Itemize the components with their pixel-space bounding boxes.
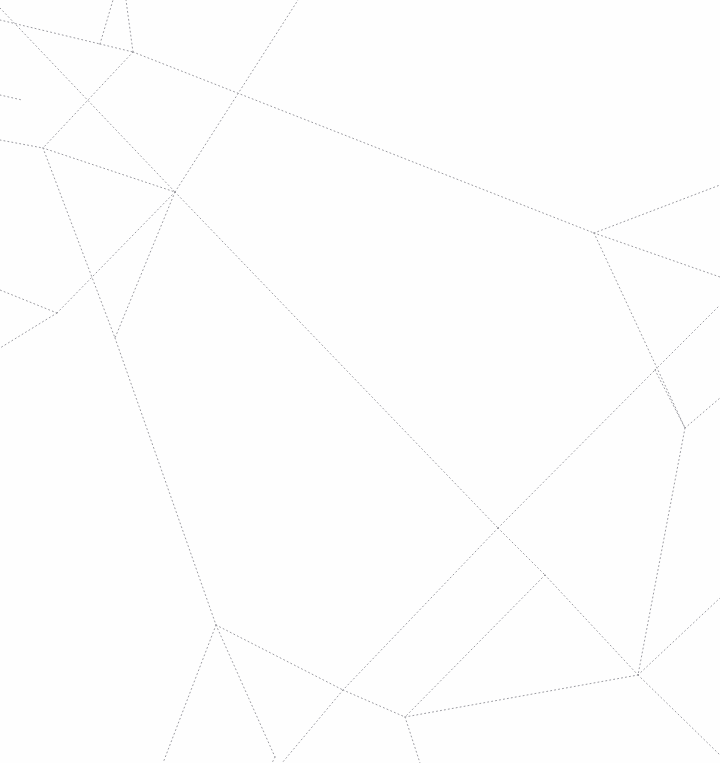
edge-lower-center-a-to-lower-center-b [343,690,405,717]
edge-hub-to-left-mid-b [115,192,175,338]
edge-left-upper-to-left-mid-b [43,148,115,338]
edge-right-upper-to-right-edge-top [594,185,720,233]
edge-left-edge-short-stub [0,95,22,100]
edge-top-left-corner-to-hub [0,8,175,192]
edge-center-cross-a-to-lower-center-a [343,528,498,690]
edge-lower-center-a-to-bottom-edge [282,690,343,763]
edge-bottom-v-to-bottom-edge [272,757,275,763]
edge-right-mid-b-to-right-edge [685,398,720,428]
edge-layer [0,0,720,763]
edge-left-mid-a-to-left-edge-low [0,313,57,348]
edge-upper-left-a-to-top-edge [100,0,113,44]
edge-right-mid-a-to-right-edge [655,305,720,370]
edge-upper-left-b-to-right-upper [133,52,594,233]
edge-right-mid-a-to-right-mid-b [655,370,685,428]
edge-lower-left-to-bottom-v [216,625,275,757]
edge-center-cross-a-to-center-cross-b [498,528,545,575]
edge-upper-left-b-to-top-edge [126,0,133,52]
edge-upper-left-a-to-upper-left-b [100,44,133,52]
edge-center-cross-b-to-lower-right [545,575,638,675]
edge-lower-left-to-bottom-edge-left [163,625,216,763]
edge-right-upper-to-right-mid-b [594,233,685,428]
edge-lower-center-b-to-bottom-edge [405,717,420,763]
edge-hub-to-center-cross-a [175,192,498,528]
edge-hub-to-left-mid-a [57,192,175,313]
edge-right-mid-b-to-lower-right [638,428,685,675]
edge-hub-to-top-edge [175,0,298,192]
line-arrangement-svg [0,0,720,763]
edge-right-upper-to-right-edge-mid [594,233,720,277]
edge-center-cross-a-to-right-mid-a [498,370,655,528]
edge-left-edge-to-upper-left-a [0,20,100,44]
edge-lower-right-to-bottom-edge [638,675,720,755]
edge-lower-left-to-lower-center-a [216,625,343,690]
diagram-canvas [0,0,720,763]
edge-left-edge-to-left-upper [0,140,43,148]
edge-left-upper-to-hub [43,148,175,192]
edge-left-mid-a-to-left-edge [0,290,57,313]
edge-left-mid-b-to-lower-left [115,338,216,625]
